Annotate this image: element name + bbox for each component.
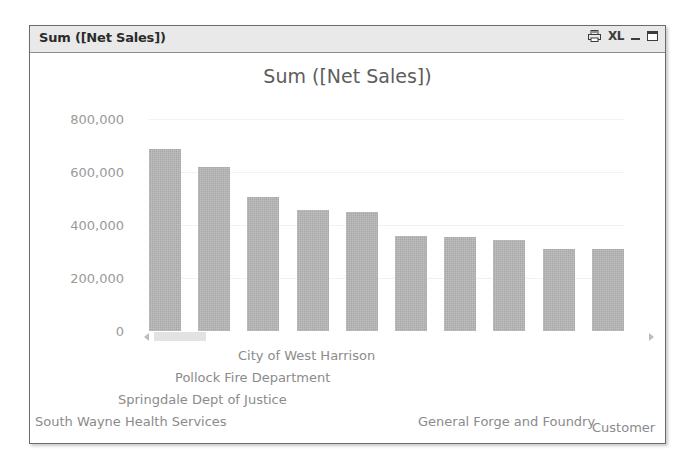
bar[interactable] bbox=[297, 210, 329, 331]
excel-export-icon[interactable]: XL bbox=[608, 30, 624, 42]
print-icon[interactable] bbox=[588, 30, 601, 42]
screenshot-root: Sum ([Net Sales]) XL bbox=[0, 0, 689, 470]
x-axis-label-general-forge-and-foundry: General Forge and Foundry bbox=[418, 414, 595, 429]
titlebar-button-group: XL bbox=[588, 30, 658, 42]
x-axis-label-springdale-dept-of-justice: Springdale Dept of Justice bbox=[118, 392, 287, 407]
bar[interactable] bbox=[247, 197, 279, 331]
maximize-icon bbox=[647, 31, 658, 41]
x-axis-title: Customer bbox=[592, 420, 655, 435]
chart-body: Sum ([Net Sales]) 800,000600,000400,0002… bbox=[30, 53, 665, 443]
y-axis-tick-label: 400,000 bbox=[38, 218, 124, 233]
x-axis-label-city-of-west-harrison: City of West Harrison bbox=[238, 348, 375, 363]
window-titlebar: Sum ([Net Sales]) XL bbox=[30, 26, 665, 53]
bar[interactable] bbox=[592, 249, 624, 331]
x-axis-label-pollock-fire-department: Pollock Fire Department bbox=[175, 370, 330, 385]
scrollbar-track[interactable] bbox=[154, 332, 644, 341]
scroll-left-arrow-icon[interactable] bbox=[144, 333, 149, 341]
minimize-icon bbox=[631, 32, 640, 41]
maximize-button[interactable] bbox=[647, 31, 658, 41]
minimize-button[interactable] bbox=[631, 32, 640, 41]
bar[interactable] bbox=[543, 249, 575, 331]
scrollbar-thumb[interactable] bbox=[154, 332, 206, 341]
x-axis-label-south-wayne-health-services: South Wayne Health Services bbox=[35, 414, 227, 429]
bar[interactable] bbox=[493, 240, 525, 331]
y-axis-tick-label: 600,000 bbox=[38, 165, 124, 180]
bar[interactable] bbox=[444, 237, 476, 331]
y-axis-tick-label: 0 bbox=[38, 324, 124, 339]
bar[interactable] bbox=[198, 167, 230, 331]
plot-horizontal-scrollbar[interactable] bbox=[143, 330, 655, 343]
gridline bbox=[149, 119, 624, 120]
chart-window: Sum ([Net Sales]) XL bbox=[29, 25, 666, 444]
scroll-right-arrow-icon[interactable] bbox=[649, 333, 654, 341]
y-axis-tick-label: 800,000 bbox=[38, 112, 124, 127]
plot-area: 800,000600,000400,000200,0000 bbox=[30, 53, 665, 443]
bar[interactable] bbox=[149, 149, 181, 331]
window-title: Sum ([Net Sales]) bbox=[39, 30, 166, 45]
y-axis-tick-label: 200,000 bbox=[38, 271, 124, 286]
bar[interactable] bbox=[346, 212, 378, 331]
bar[interactable] bbox=[395, 236, 427, 331]
